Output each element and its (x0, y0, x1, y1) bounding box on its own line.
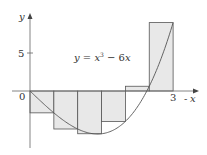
y-axis-arrow-icon (28, 13, 33, 19)
y-tick-label-5: 5 (18, 48, 24, 59)
riemann-rectangle (125, 86, 149, 91)
origin-label: 0 (19, 91, 25, 102)
x-axis-label: x (190, 93, 196, 104)
riemann-sum-chart: y x - 0 3 5 y = x3 − 6x (0, 0, 207, 155)
riemann-rectangle (78, 91, 102, 134)
x-axis-dash: - (184, 93, 187, 104)
riemann-rectangle (54, 91, 78, 129)
y-axis-label: y (18, 11, 25, 22)
riemann-rectangle (102, 91, 126, 121)
equation-label: y = x3 − 6x (73, 51, 131, 63)
x-tick-label-3: 3 (170, 92, 176, 103)
riemann-rectangles (30, 23, 173, 134)
